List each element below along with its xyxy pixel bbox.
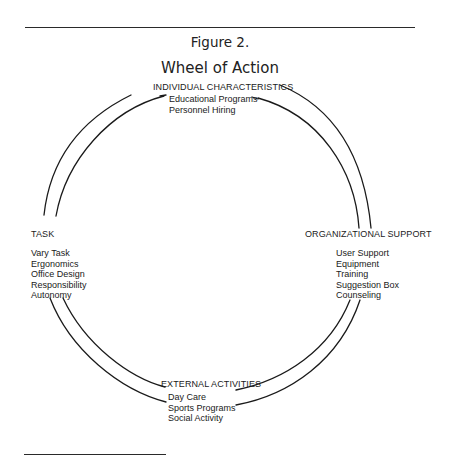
- inner-arc-top-right: [258, 98, 359, 228]
- list-item: Social Activity: [168, 413, 236, 424]
- list-item: Ergonomics: [31, 259, 87, 270]
- list-item: Counseling: [336, 290, 399, 301]
- section-items-external-activities: Day Care Sports Programs Social Activity: [168, 392, 236, 424]
- section-items-task: Vary Task Ergonomics Office Design Respo…: [31, 248, 87, 301]
- inner-arc-bottom-left: [63, 298, 165, 387]
- inner-arc-bottom-right: [236, 300, 350, 390]
- section-heading-organizational-support: ORGANIZATIONAL SUPPORT: [305, 229, 432, 240]
- list-item: Training: [336, 269, 399, 280]
- outer-arc-top-right: [280, 85, 371, 228]
- section-items-organizational-support: User Support Equipment Training Suggesti…: [336, 248, 399, 301]
- list-item: Educational Programs: [169, 94, 258, 105]
- list-item: Day Care: [168, 392, 236, 403]
- list-item: Vary Task: [31, 248, 87, 259]
- list-item: Office Design: [31, 269, 87, 280]
- list-item: Responsibility: [31, 280, 87, 291]
- section-heading-external-activities: EXTERNAL ACTIVITIES: [161, 379, 261, 390]
- section-heading-individual-characteristics: INDIVIDUAL CHARACTERISTICS: [153, 82, 293, 93]
- list-item: Sports Programs: [168, 403, 236, 414]
- top-connector-left: [160, 95, 166, 96]
- outer-arc-bottom-left: [50, 298, 166, 402]
- list-item: Personnel Hiring: [169, 105, 258, 116]
- list-item: User Support: [336, 248, 399, 259]
- list-item: Equipment: [336, 259, 399, 270]
- inner-arc-top-left: [56, 96, 164, 216]
- list-item: Suggestion Box: [336, 280, 399, 291]
- list-item: Autonomy: [31, 290, 87, 301]
- outer-arc-top-left: [44, 95, 131, 215]
- section-items-individual-characteristics: Educational Programs Personnel Hiring: [169, 94, 258, 115]
- section-heading-task: TASK: [31, 229, 54, 240]
